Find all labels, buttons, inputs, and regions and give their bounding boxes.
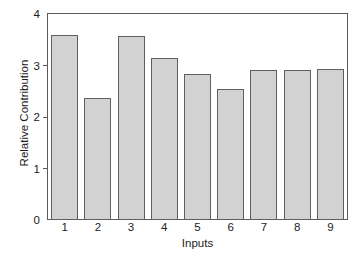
y-axis-tick-label: 2 <box>34 111 40 123</box>
y-axis-tick-label: 3 <box>34 60 40 72</box>
y-axis-tick-label: 0 <box>34 214 40 226</box>
y-axis-tick-label: 1 <box>34 163 40 175</box>
y-axis-title: Relative Contribution <box>18 43 30 183</box>
bar <box>317 69 344 220</box>
bar <box>151 58 178 220</box>
x-axis-tick-label: 6 <box>217 221 244 233</box>
x-axis-tick-label: 9 <box>317 221 344 233</box>
x-axis-tick-label: 5 <box>184 221 211 233</box>
bar <box>284 70 311 220</box>
bar <box>217 89 244 220</box>
plot-area <box>48 14 347 220</box>
x-axis-title: Inputs <box>48 237 347 249</box>
bar <box>184 74 211 220</box>
bar <box>250 70 277 220</box>
x-axis-tick-label: 1 <box>51 221 78 233</box>
bar-chart-figure: 01234 Relative Contribution 123456789 In… <box>0 0 360 261</box>
bar <box>51 35 78 220</box>
bar <box>84 98 111 220</box>
x-axis-tick-label: 4 <box>151 221 178 233</box>
bar <box>118 36 145 220</box>
x-axis: 123456789 <box>48 221 347 235</box>
x-axis-tick-label: 7 <box>250 221 277 233</box>
x-axis-tick-label: 8 <box>284 221 311 233</box>
x-axis-tick-label: 3 <box>118 221 145 233</box>
y-axis-tick-label: 4 <box>34 8 40 20</box>
x-axis-tick-label: 2 <box>84 221 111 233</box>
